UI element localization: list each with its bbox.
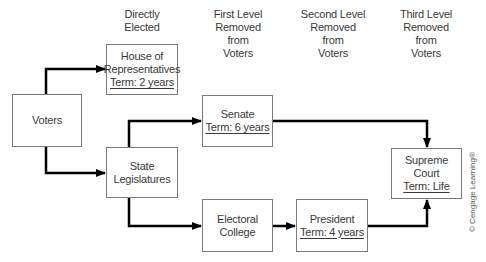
node-house-of-representatives: House of Representatives Term: 2 years [106,44,178,95]
diagram-canvas: Directly Elected First Level Removed fro… [0,0,486,262]
node-label: Electoral [217,213,258,226]
node-electoral-college: Electoral College [202,199,273,252]
node-label: College [220,226,256,239]
node-label: Voters [32,114,62,127]
copyright-notice: © Cengage Learning® [468,152,477,232]
node-term: Term: Life [403,180,449,193]
node-state-legislatures: State Legislatures [106,147,178,198]
node-president: President Term: 4 years [296,199,368,252]
node-label: Court [414,167,440,180]
node-label: Representatives [104,63,181,76]
node-label: House of [121,50,163,63]
node-supreme-court: Supreme Court Term: Life [391,148,462,199]
node-label: Senate [221,108,255,121]
arrow-senate-to-court [273,121,427,147]
node-label: Supreme [405,154,448,167]
arrow-president-to-court [368,200,427,226]
node-label: Legislatures [114,173,171,186]
node-term: Term: 4 years [300,226,364,239]
arrow-state-to-electoral [129,198,201,226]
arrow-state-to-senate [129,121,201,147]
arrow-voters-to-state [46,147,105,173]
node-label: President [310,213,355,226]
arrow-voters-to-house [46,69,105,94]
node-term: Term: 6 years [205,121,269,134]
node-term: Term: 2 years [110,76,174,89]
node-label: State [130,160,155,173]
node-senate: Senate Term: 6 years [202,95,273,147]
node-voters: Voters [12,94,82,147]
